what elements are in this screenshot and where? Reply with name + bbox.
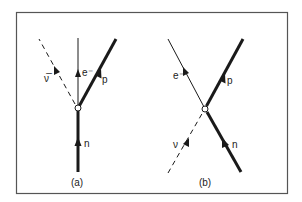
figure-border [17,13,288,194]
panel-a: n e⁻ p ν̅ (a) [39,38,116,188]
caption-b: (b) [199,177,211,188]
proton-line-b [207,39,244,106]
arrow-icon [54,66,60,75]
label-electron-a: e⁻ [82,67,93,78]
arrow-icon [75,137,82,146]
label-n-b: n [232,139,238,150]
label-proton-a: p [102,74,108,85]
label-n-a: n [84,138,90,149]
label-antineutrino-a: ν̅ [44,73,52,84]
label-electron-b: e⁻ [173,70,184,81]
vertex-b [202,106,208,112]
feynman-diagram-figure: n e⁻ p ν̅ (a) n e⁻ p ν (b [0,0,302,202]
arrow-icon [75,69,81,77]
label-proton-b: p [227,75,233,86]
panel-b: n e⁻ p ν (b) [168,39,243,188]
caption-a: (a) [71,177,83,188]
arrow-icon [183,67,189,76]
vertex-a [75,105,81,111]
label-neutrino-b: ν [173,139,178,150]
diagram-canvas: n e⁻ p ν̅ (a) n e⁻ p ν (b [0,0,302,202]
